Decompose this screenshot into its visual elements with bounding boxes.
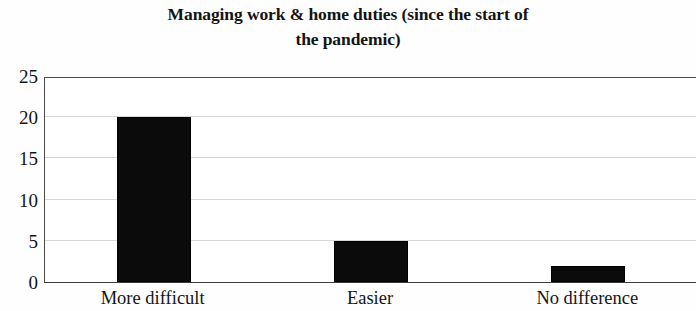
- x-axis-tick-labels: More difficultEasierNo difference: [44, 287, 696, 311]
- y-axis-tick-labels: 0510152025: [0, 77, 38, 283]
- y-axis-tick-label: 20: [2, 108, 38, 127]
- plot-area: [44, 77, 696, 283]
- x-axis-tick-label: More difficult: [44, 287, 261, 309]
- chart-title: Managing work & home duties (since the s…: [40, 2, 656, 52]
- bar: [551, 266, 625, 282]
- y-axis-tick-label: 5: [2, 232, 38, 251]
- y-axis-tick-label: 10: [2, 191, 38, 210]
- bar: [117, 117, 191, 282]
- y-axis-tick-label: 15: [2, 149, 38, 168]
- y-axis-tick-label: 0: [2, 273, 38, 292]
- x-axis-tick-label: No difference: [479, 287, 696, 309]
- y-axis-tick-label: 25: [2, 67, 38, 86]
- chart-figure: Managing work & home duties (since the s…: [0, 0, 696, 311]
- x-axis-tick-label: Easier: [261, 287, 478, 309]
- bar: [334, 241, 408, 282]
